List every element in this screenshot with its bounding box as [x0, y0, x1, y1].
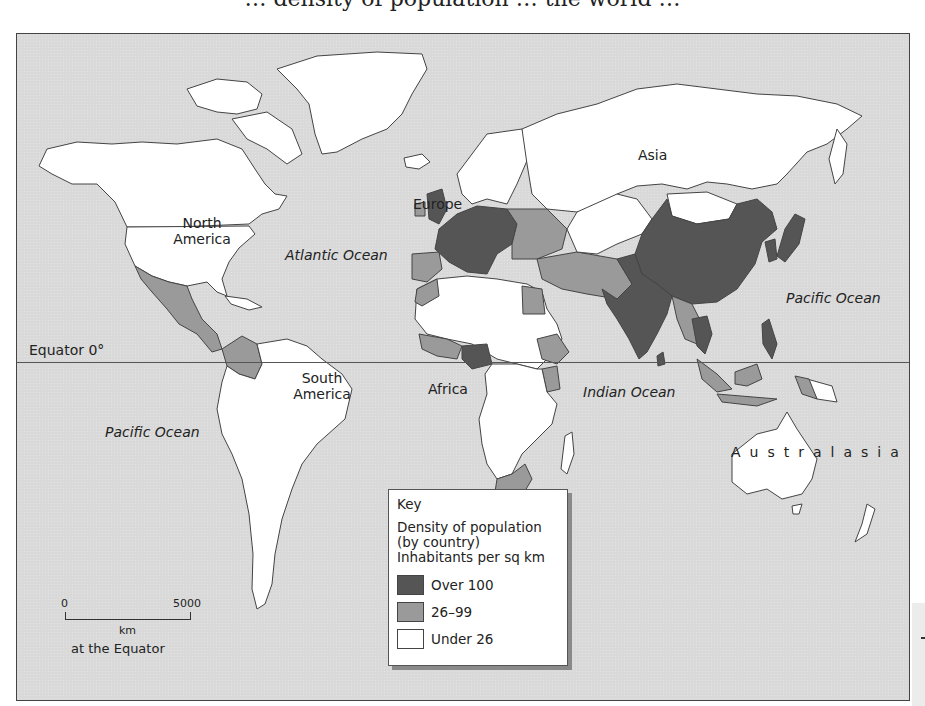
- label-equator: Equator 0°: [29, 342, 104, 358]
- adjacent-page-fragment: [912, 603, 925, 706]
- label-north-america: North America: [162, 215, 242, 247]
- scale-end: 5000: [173, 597, 201, 610]
- swatch-mid: [397, 602, 424, 622]
- label-south-america: South America: [287, 370, 357, 402]
- label-australasia: Australasia: [731, 444, 908, 460]
- key-description: Density of population (by country) Inhab…: [397, 520, 559, 565]
- japan: [777, 214, 805, 262]
- key-title: Key: [397, 496, 559, 512]
- label-atlantic-ocean: Atlantic Ocean: [285, 247, 388, 263]
- caption-fragment: … density of population … the world …: [0, 0, 925, 16]
- korea: [765, 239, 777, 262]
- western-europe: [435, 206, 517, 274]
- iceland: [404, 154, 430, 169]
- scale-unit: km: [119, 624, 136, 637]
- madagascar: [561, 432, 574, 474]
- map-frame: Asia Europe North America Atlantic Ocean…: [16, 33, 910, 701]
- new-zealand: [855, 504, 875, 542]
- tasmania: [792, 504, 802, 514]
- equator-line: [17, 362, 909, 363]
- key-item-under-26: Under 26: [397, 628, 559, 649]
- label-pacific-ocean-west: Pacific Ocean: [105, 424, 200, 440]
- scale-start: 0: [61, 597, 68, 610]
- scale-bar: 0 5000 km at the Equator: [57, 592, 207, 672]
- swatch-dark: [397, 575, 424, 595]
- philippines: [762, 319, 777, 359]
- canadian-arctic: [187, 79, 262, 114]
- label-europe: Europe: [413, 196, 462, 212]
- label-africa: Africa: [428, 381, 468, 397]
- scale-bar-line: [65, 612, 191, 620]
- canada: [39, 139, 287, 227]
- eastern-europe: [507, 209, 567, 259]
- scale-note: at the Equator: [71, 641, 165, 656]
- thailand: [692, 316, 712, 354]
- iberia: [412, 252, 442, 282]
- adjacent-page-mark: [921, 637, 925, 639]
- label-pacific-ocean-east: Pacific Ocean: [786, 290, 881, 306]
- sri-lanka: [657, 352, 665, 366]
- egypt: [522, 286, 545, 314]
- key-item-26-99: 26–99: [397, 601, 559, 622]
- key-item-over-100: Over 100: [397, 574, 559, 595]
- scandinavia: [457, 129, 532, 204]
- swatch-white: [397, 629, 424, 649]
- greenland: [277, 52, 427, 154]
- label-asia: Asia: [638, 147, 667, 163]
- map-key: Key Density of population (by country) I…: [388, 489, 568, 666]
- nigeria: [462, 344, 492, 369]
- label-indian-ocean: Indian Ocean: [583, 384, 675, 400]
- indonesia: [697, 359, 732, 392]
